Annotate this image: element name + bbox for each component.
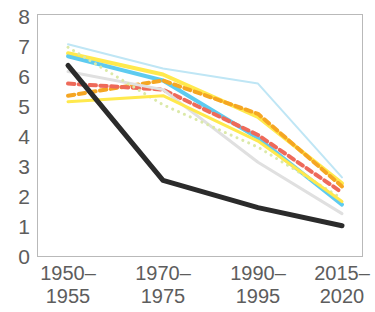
series-group <box>68 44 342 226</box>
